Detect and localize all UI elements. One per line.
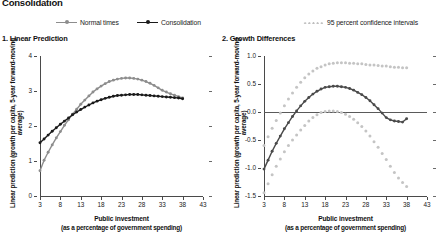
y-tick-mark-mirror <box>433 56 436 57</box>
y-tick-label: 1 <box>14 157 32 164</box>
x-tick-label: 33 <box>378 201 394 208</box>
y-tick-mark-mirror <box>209 126 212 127</box>
legend-item-consolidation: Consolidation <box>137 16 201 29</box>
x-tick-label: 33 <box>154 201 170 208</box>
legend-item-confidence-intervals: 95 percent confidence intervals <box>303 16 418 29</box>
panel-2-x-axis-label: Public investment <box>264 215 427 222</box>
y-tick-mark-mirror <box>433 140 436 141</box>
x-tick-label: 8 <box>276 201 292 208</box>
x-tick-label: 8 <box>52 201 68 208</box>
y-tick-mark <box>258 140 261 141</box>
y-tick-label: 1.0 <box>238 52 256 59</box>
x-tick-label: 18 <box>317 201 333 208</box>
x-tick-label: 23 <box>114 201 130 208</box>
series-growth-difference <box>263 85 409 171</box>
y-tick-mark-mirror <box>209 196 212 197</box>
y-tick-mark <box>34 161 37 162</box>
y-tick-mark-mirror <box>433 168 436 169</box>
panel-linear-prediction: 1. Linear Prediction Linear prediction (… <box>0 34 220 245</box>
y-tick-mark-mirror <box>433 84 436 85</box>
y-tick-label: -1.0 <box>238 164 256 171</box>
panel-1-x-axis-sublabel: (as a percentage of government spending) <box>16 224 227 231</box>
y-tick-label: 0.0 <box>238 108 256 115</box>
series-layer <box>40 56 205 198</box>
legend-swatch-confidence-intervals <box>303 19 324 26</box>
legend-swatch-normal-times <box>56 19 77 26</box>
figure-title: Consolidation <box>2 0 63 8</box>
y-tick-mark-mirror <box>433 196 436 197</box>
y-tick-label: 2 <box>14 122 32 129</box>
x-tick-label: 23 <box>338 201 354 208</box>
y-tick-mark-mirror <box>209 161 212 162</box>
y-tick-mark <box>258 168 261 169</box>
y-tick-mark <box>34 196 37 197</box>
y-tick-mark <box>258 196 261 197</box>
series-upper-95-confidence-interval <box>263 61 409 147</box>
panel-2-y-axis-label: Linear prediction (growth per capita, 5-… <box>233 36 248 210</box>
panel-1-x-axis-label: Public investment <box>40 215 203 222</box>
legend-label-normal-times: Normal times <box>80 19 119 26</box>
figure-root: Consolidation Normal times Consolidation… <box>0 0 443 245</box>
x-tick-label: 43 <box>419 201 435 208</box>
y-tick-mark <box>34 56 37 57</box>
panel-1-plot-area: 012343813182328333843 <box>40 56 203 196</box>
y-tick-label: 3 <box>14 87 32 94</box>
series-lower-95-confidence-interval <box>263 109 409 194</box>
y-tick-label: 0.5 <box>238 80 256 87</box>
x-tick-label: 28 <box>358 201 374 208</box>
y-tick-mark <box>34 91 37 92</box>
y-tick-label: -0.5 <box>238 136 256 143</box>
y-tick-label: -1.5 <box>238 192 256 199</box>
y-tick-mark <box>258 112 261 113</box>
x-tick-label: 38 <box>399 201 415 208</box>
panel-2-plot-area: 1.00.50.0-0.5-1.0-1.53813182328333843 <box>264 56 427 196</box>
y-tick-mark-mirror <box>209 56 212 57</box>
legend: Normal times Consolidation 95 percent co… <box>0 16 443 29</box>
y-tick-mark <box>258 56 261 57</box>
x-tick-label: 3 <box>32 201 48 208</box>
x-tick-label: 18 <box>93 201 109 208</box>
x-tick-label: 13 <box>297 201 313 208</box>
series-layer <box>264 56 429 198</box>
y-tick-label: 0 <box>14 192 32 199</box>
series-consolidation <box>39 93 185 144</box>
x-tick-label: 43 <box>195 201 211 208</box>
legend-swatch-consolidation <box>137 19 158 26</box>
y-tick-label: 4 <box>14 52 32 59</box>
panel-growth-differences: 2. Growth Differences Linear prediction … <box>220 34 440 245</box>
legend-item-normal-times: Normal times <box>56 16 119 29</box>
x-tick-label: 28 <box>134 201 150 208</box>
panel-2-x-axis-sublabel: (as a percentage of government spending) <box>240 224 443 231</box>
y-tick-mark <box>258 84 261 85</box>
y-tick-mark <box>34 126 37 127</box>
legend-label-consolidation: Consolidation <box>161 19 201 26</box>
x-tick-label: 3 <box>256 201 272 208</box>
legend-label-confidence-intervals: 95 percent confidence intervals <box>327 19 418 26</box>
y-tick-mark-mirror <box>209 91 212 92</box>
x-tick-label: 38 <box>175 201 191 208</box>
y-tick-mark-mirror <box>433 112 436 113</box>
x-tick-label: 13 <box>73 201 89 208</box>
